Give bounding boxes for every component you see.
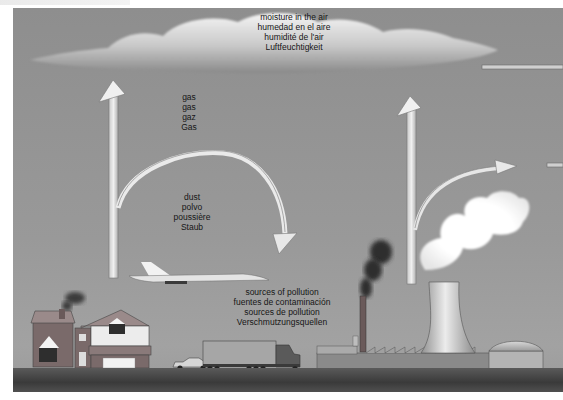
label-moisture-de: Luftfeuchtigkeit <box>258 42 331 52</box>
label-moisture-en: moisture in the air <box>258 12 331 22</box>
label-moisture-fr: humidité de l'air <box>258 32 331 42</box>
label-dust-en: dust <box>174 192 211 202</box>
label-dust-fr: poussière <box>174 212 211 222</box>
label-dust-es: polvo <box>174 202 211 212</box>
factory-smoke <box>360 240 392 298</box>
label-gas-en: gas <box>181 92 197 102</box>
label-dust-de: Staub <box>174 222 211 232</box>
bar-upper-right <box>482 65 563 69</box>
label-sources-es: fuentes de contaminación <box>234 297 331 307</box>
label-sources: sources of pollution fuentes de contamin… <box>234 287 331 327</box>
steam-plume <box>420 191 529 270</box>
label-gas-fr: gaz <box>181 112 197 122</box>
supersonic-airplane <box>129 262 269 284</box>
arrow-up-right <box>397 96 421 284</box>
bar-lower-right <box>547 163 563 167</box>
cooling-tower <box>421 282 475 353</box>
arrow-shaft <box>407 104 416 284</box>
ground <box>13 368 563 392</box>
label-sources-en: sources of pollution <box>234 287 331 297</box>
label-sources-fr: sources de pollution <box>234 307 331 317</box>
label-gas-de: Gas <box>181 122 197 132</box>
label-gas-es: gas <box>181 102 197 112</box>
scene <box>13 8 563 392</box>
header-caption <box>0 0 130 5</box>
label-moisture: moisture in the air humedad en el aire h… <box>258 12 331 52</box>
label-sources-de: Verschmutzungsquellen <box>234 317 331 327</box>
label-moisture-es: humedad en el aire <box>258 22 331 32</box>
factory <box>317 296 517 373</box>
diagram-panel: moisture in the air humedad en el aire h… <box>13 8 563 392</box>
house <box>31 309 151 368</box>
label-dust: dust polvo poussière Staub <box>174 192 211 232</box>
arrow-up-left <box>99 80 125 278</box>
label-gas: gas gas gaz Gas <box>181 92 197 132</box>
